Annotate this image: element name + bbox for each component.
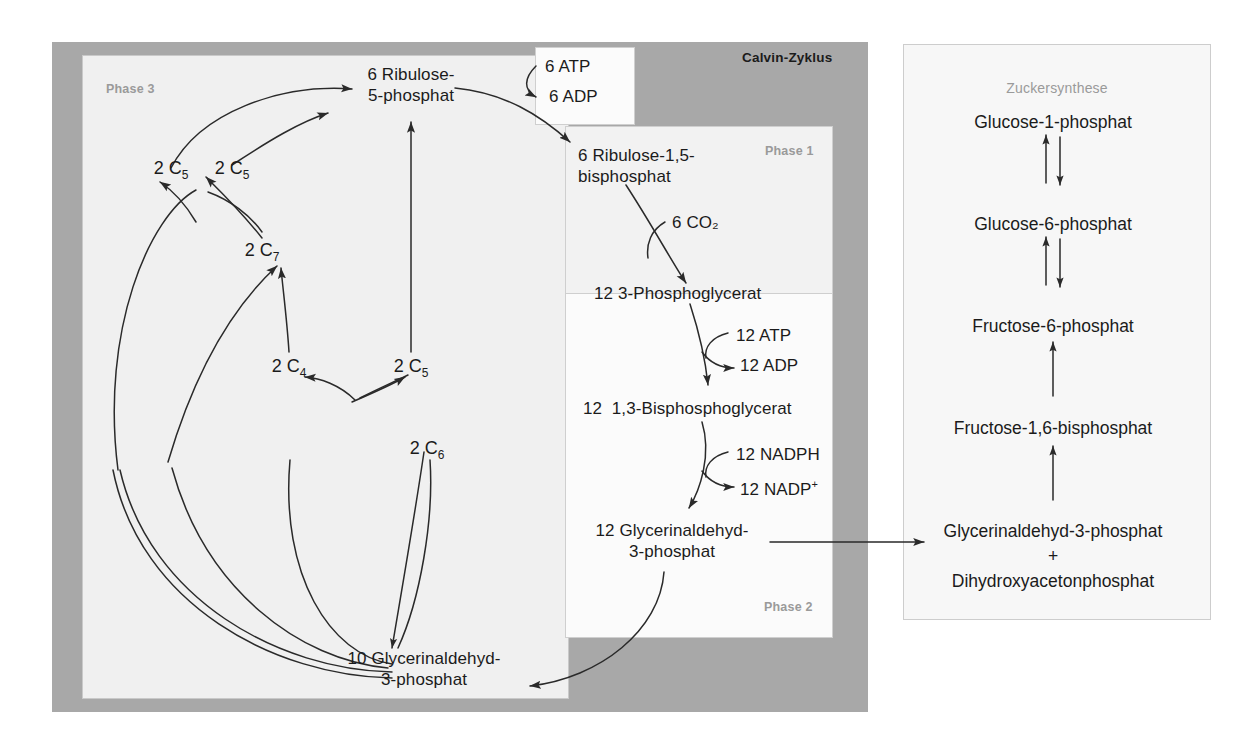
ribulose-5-phosphat-label: 6 Ribulose- 5-phosphat — [367, 64, 454, 106]
dihydroxyacetonphosphat-label: Dihydroxyacetonphosphat — [952, 571, 1154, 592]
plus-sign-label: + — [1048, 546, 1058, 567]
node-c5-upper-left: 2 C5 — [154, 158, 189, 182]
calvin-cycle-title: Calvin-Zyklus — [742, 50, 832, 65]
phosphoglycerat-label: 12 3-Phosphoglycerat — [594, 283, 761, 304]
glucose-1-phosphat-label: Glucose-1-phosphat — [974, 112, 1132, 133]
phase-2-label: Phase 2 — [764, 600, 813, 614]
phase-2-panel — [565, 294, 833, 638]
node-c5-lower: 2 C5 — [394, 356, 429, 380]
phase-3-panel — [82, 55, 569, 699]
co2-label: 6 CO₂ — [672, 212, 719, 233]
diagram-root: Calvin-Zyklus Phase 3 Phase 1 Phase 2 Zu… — [0, 0, 1249, 738]
adp-12-label: 12 ADP — [740, 355, 798, 376]
bisphosphoglycerat-label: 12 1,3-Bisphosphoglycerat — [583, 398, 792, 419]
adp-6-label: 6 ADP — [549, 86, 598, 107]
node-c6: 2 C6 — [410, 438, 445, 462]
node-c4: 2 C4 — [272, 356, 307, 380]
sugar-synthesis-title: Zuckersynthese — [1006, 80, 1108, 96]
phase-1-label: Phase 1 — [765, 144, 814, 158]
glycerinaldehyd-3-phosphat-sugar-label: Glycerinaldehyd-3-phosphat — [944, 521, 1163, 542]
glycerinaldehyd-3-phosphat-12-label: 12 Glycerinaldehyd- 3-phosphat — [595, 520, 748, 562]
nadp-plus-12-label: 12 NADP+ — [740, 474, 818, 500]
atp-6-label: 6 ATP — [545, 56, 591, 77]
fructose-1-6-bisphosphat-label: Fructose-1,6-bisphosphat — [954, 418, 1152, 439]
glucose-6-phosphat-label: Glucose-6-phosphat — [974, 214, 1132, 235]
phase-3-label: Phase 3 — [106, 82, 155, 96]
glycerinaldehyd-3-phosphat-10-label: 10 Glycerinaldehyd- 3-phosphat — [347, 648, 500, 690]
fructose-6-phosphat-label: Fructose-6-phosphat — [972, 316, 1133, 337]
ribulose-1-5-bisphosphat-label: 6 Ribulose-1,5- bisphosphat — [578, 145, 695, 187]
nadph-12-label: 12 NADPH — [736, 444, 820, 465]
node-c7: 2 C7 — [245, 240, 280, 264]
atp-12-label: 12 ATP — [736, 325, 791, 346]
node-c5-upper-mid: 2 C5 — [215, 158, 250, 182]
